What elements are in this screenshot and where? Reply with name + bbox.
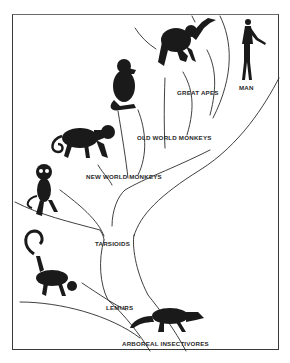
label-old-world-monkeys: OLD WORLD MONKEYS	[137, 135, 212, 141]
label-new-world-monkeys: NEW WORLD MONKEYS	[86, 174, 162, 180]
new-world-monkey-figure	[52, 125, 115, 158]
evolution-tree	[0, 0, 290, 363]
branch-owm-2	[183, 72, 192, 135]
label-arboreal-insectivores: ARBOREAL INSECTIVORES	[122, 341, 209, 347]
label-great-apes: GREAT APES	[177, 90, 219, 96]
old-world-monkey-figure	[111, 59, 136, 110]
branch-trunk-right	[133, 235, 186, 351]
man-figure	[242, 19, 266, 80]
branch-nwm-3	[138, 110, 145, 175]
arboreal-insectivore-figure	[130, 308, 204, 332]
branch-trunk-left	[101, 240, 150, 351]
tarsier-figure	[28, 164, 58, 216]
label-lemurs: LEMURS	[106, 305, 133, 311]
label-tarsioids: TARSIOIDS	[95, 241, 130, 247]
branch-main	[112, 150, 210, 226]
branch-ape	[207, 50, 215, 115]
branch-ape-2	[213, 16, 229, 118]
branch-nwm-2	[118, 111, 128, 178]
branch-ape-left	[135, 28, 156, 49]
label-man: MAN	[239, 85, 254, 91]
lemur-figure	[26, 231, 77, 296]
great-ape-figure	[158, 18, 216, 66]
branch-ape-top	[192, 16, 195, 22]
tree-branches	[15, 16, 279, 351]
branch-man-outer	[134, 78, 279, 236]
